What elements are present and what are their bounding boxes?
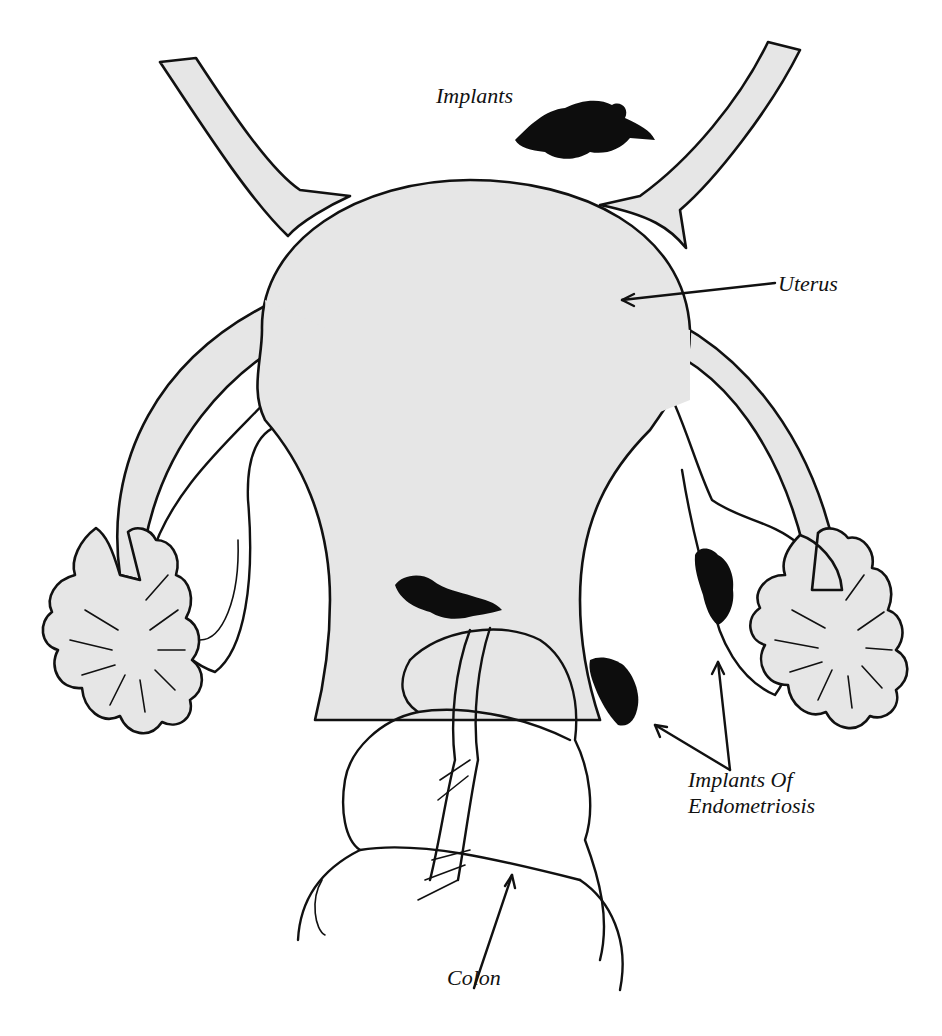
implant-top [515,101,655,159]
label-uterus: Uterus [778,272,838,296]
upper-right-ligament [600,42,800,248]
label-endometriosis: Endometriosis [688,794,815,818]
right-fimbriae [750,528,907,728]
label-implants-of: Implants Of [688,768,793,792]
label-colon: Colon [447,966,501,990]
implant-right-ovary [695,549,733,625]
label-implants-top: Implants [436,84,513,108]
uterus [257,180,690,720]
upper-left-ligament [160,58,350,236]
endometriosis-diagram [0,0,942,1036]
